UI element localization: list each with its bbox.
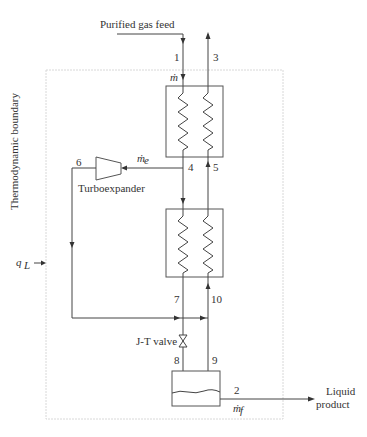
feed-stream: Purified gas feed 1 ṁ [100,18,186,86]
thermodynamic-boundary [46,70,283,419]
product-label-2: product [316,398,350,410]
state-10: 10 [211,293,223,305]
heat-leak-arrow-icon [41,261,46,266]
state-1: 1 [174,51,180,63]
state-8: 8 [174,354,180,366]
jt-valve-label: J-T valve [136,335,177,347]
jt-valve: J-T valve [136,335,187,347]
return-stream-3: 3 [206,32,220,86]
state-6: 6 [76,156,82,168]
heat-exchanger-1 [166,86,223,157]
boundary-label: Thermodynamic boundary [8,93,20,210]
svg-text:e: e [144,154,149,166]
state-2: 2 [234,384,240,396]
liquid-separator [172,371,220,406]
liquid-product-stream: 2 ṁ f Liquid product [220,384,356,416]
mass-flow-m: ṁ [170,71,178,83]
claude-cycle-diagram: Thermodynamic boundary q L Purified gas … [0,0,367,437]
svg-text:q: q [16,256,22,268]
state-4: 4 [188,161,194,173]
heat-leak: q L [16,256,46,271]
state-3: 3 [213,51,219,63]
heat-exchanger-2 [166,209,223,277]
turboexpander: Turboexpander [78,157,145,194]
svg-text:L: L [23,259,30,271]
state-7: 7 [174,293,180,305]
product-label-1: Liquid [326,385,356,397]
state-9: 9 [212,354,218,366]
turboexpander-label: Turboexpander [78,182,145,194]
feed-label: Purified gas feed [100,18,175,30]
state-5: 5 [213,161,219,173]
svg-text:f: f [240,404,245,416]
